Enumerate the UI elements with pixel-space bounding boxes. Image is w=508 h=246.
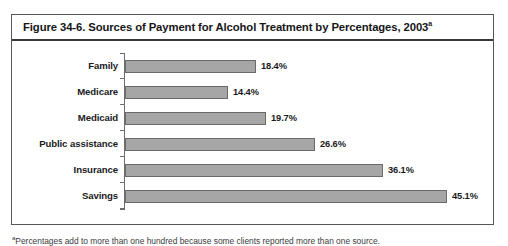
bar	[125, 164, 383, 177]
bar	[125, 86, 228, 99]
page-title: Figure 34-6. Sources of Payment for Alco…	[12, 21, 432, 33]
bar	[125, 60, 256, 73]
bar	[125, 190, 447, 203]
figure-frame: Figure 34-6. Sources of Payment for Alco…	[11, 14, 494, 225]
bar-value-label: 26.6%	[320, 139, 346, 149]
bar-value-label: 45.1%	[452, 191, 478, 201]
bar-value-label: 36.1%	[388, 165, 414, 175]
figure-title-superscript: a	[428, 20, 432, 27]
bar-row: Family 18.4%	[12, 53, 495, 79]
category-label: Medicaid	[12, 112, 118, 123]
bar-row: Medicare 14.4%	[12, 79, 495, 105]
bar-value-label: 14.4%	[233, 87, 259, 97]
axis-tick	[120, 208, 125, 209]
bar	[125, 138, 315, 151]
chart-plot-area: Family 18.4% Medicare 14.4% Medicaid 19.…	[12, 41, 495, 224]
bar-row: Insurance 36.1%	[12, 157, 495, 183]
footnote-text: Percentages add to more than one hundred…	[15, 236, 380, 246]
figure-footnote: aPercentages add to more than one hundre…	[12, 236, 482, 246]
category-label: Family	[12, 60, 118, 71]
bar-value-label: 19.7%	[271, 113, 297, 123]
category-label: Insurance	[12, 164, 118, 175]
category-label: Public assistance	[12, 138, 118, 149]
bar-row: Medicaid 19.7%	[12, 105, 495, 131]
figure-screenshot: Figure 34-6. Sources of Payment for Alco…	[0, 0, 508, 246]
category-label: Savings	[12, 190, 118, 201]
category-label: Medicare	[12, 86, 118, 97]
bar-value-label: 18.4%	[261, 61, 287, 71]
bar-row: Public assistance 26.6%	[12, 131, 495, 157]
bar-row: Savings 45.1%	[12, 183, 495, 209]
figure-title-band: Figure 34-6. Sources of Payment for Alco…	[12, 15, 493, 41]
figure-title-text: Figure 34-6. Sources of Payment for Alco…	[23, 21, 428, 33]
bar	[125, 112, 266, 125]
axis-cap-bottom	[120, 209, 125, 210]
